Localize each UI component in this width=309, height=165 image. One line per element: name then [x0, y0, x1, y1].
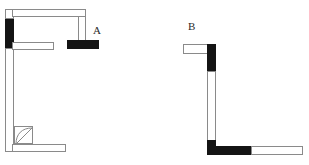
door-a-frame: [14, 126, 33, 144]
wall-a-top: [12, 9, 86, 17]
wall-a-middle-stub: [12, 42, 54, 50]
wall-b-top: [183, 44, 209, 54]
floor-plan-diagram: A B: [0, 0, 309, 165]
wall-a-detached-solid-bar: [67, 40, 99, 49]
wall-b-vertical-hollow: [207, 71, 216, 141]
wall-b-vertical-solid-top: [207, 44, 216, 72]
door-a-swing-arc: [15, 127, 34, 145]
wall-a-bottom: [12, 144, 66, 152]
wall-b-bottom-hollow: [251, 146, 303, 155]
wall-a-top-return: [78, 16, 86, 41]
label-a: A: [93, 25, 101, 36]
wall-a-left-lower: [5, 48, 14, 152]
wall-b-bottom-solid: [207, 146, 252, 155]
label-b: B: [188, 21, 196, 32]
